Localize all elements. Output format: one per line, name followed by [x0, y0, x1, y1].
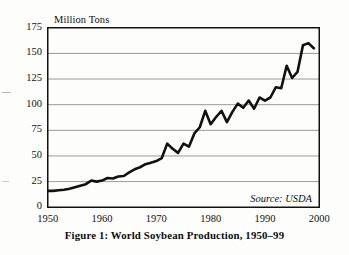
plot-area: Source: USDA: [47, 27, 320, 208]
soybean-production-chart: Million Tons 0255075100125150175 1950196…: [0, 0, 349, 255]
y-axis-tick-label: 75: [16, 123, 42, 134]
x-axis-tick-label: 1960: [85, 213, 119, 224]
figure-page: Million Tons 0255075100125150175 1950196…: [0, 0, 349, 255]
y-axis-tick-label: 150: [16, 46, 42, 57]
y-axis-tick-label: 125: [16, 72, 42, 83]
x-axis-tick-label: 1980: [194, 213, 228, 224]
x-axis-tick-label: 1950: [31, 213, 65, 224]
gridlines: [48, 53, 320, 181]
axis-tick-marks: [47, 28, 319, 208]
x-axis-tick-label: 1990: [248, 213, 282, 224]
figure-caption: Figure 1: World Soybean Production, 1950…: [0, 229, 349, 241]
plot-svg: [47, 27, 320, 208]
plot-frame: [48, 28, 320, 208]
y-axis-tick-label: 50: [16, 149, 42, 160]
y-axis-tick-label: 25: [16, 175, 42, 186]
y-axis-tick-label: 100: [16, 98, 42, 109]
data-series-line: [48, 43, 314, 191]
x-axis-tick-label: 2000: [302, 213, 336, 224]
x-axis-tick-label: 1970: [139, 213, 173, 224]
y-axis-title: Million Tons: [54, 14, 109, 25]
y-axis-tick-label: 175: [16, 21, 42, 32]
y-axis-tick-label: 0: [16, 200, 42, 211]
source-note: Source: USDA: [250, 193, 312, 204]
